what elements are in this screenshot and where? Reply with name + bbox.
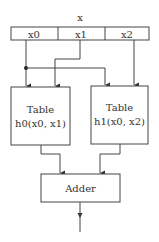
- table-h1-title: Table: [106, 102, 133, 113]
- wire-h0-out: [41, 145, 60, 173]
- output-arrow-icon: [78, 213, 83, 218]
- table-h1-function: h1(x0, x2): [94, 116, 145, 127]
- wire-h1-out: [100, 144, 120, 173]
- input-register: x0 x1 x2: [11, 27, 149, 40]
- table-h0: Table h0(x0, x1): [11, 87, 70, 145]
- wire-x1: [55, 40, 80, 86]
- field-x0: x0: [28, 29, 40, 40]
- field-x2: x2: [121, 29, 133, 40]
- table-h0-function: h0(x0, x1): [15, 118, 66, 129]
- wire-x0: [24, 40, 105, 86]
- adder-box: Adder: [41, 174, 120, 202]
- input-label: x: [77, 12, 83, 23]
- hash-diagram: x x0 x1 x2 Table h0(x0, x1) Table h1(x0,…: [0, 0, 159, 242]
- table-h0-title: Table: [27, 104, 54, 115]
- adder-label: Adder: [64, 183, 96, 194]
- table-h1: Table h1(x0, x2): [91, 86, 148, 144]
- field-x1: x1: [75, 29, 87, 40]
